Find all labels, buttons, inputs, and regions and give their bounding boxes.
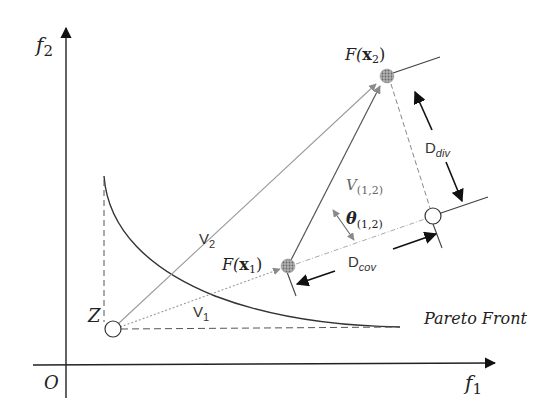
vector-v1-label: V1 xyxy=(193,303,209,323)
origin-label: O xyxy=(44,372,59,393)
theta-label: θ(1,2) xyxy=(346,209,383,231)
dcov-tick-right xyxy=(433,224,442,248)
vector-v12 xyxy=(290,86,380,262)
y-axis-label: f2 xyxy=(34,33,53,60)
solution-point-x1 xyxy=(281,259,295,273)
ddiv-arrow-down xyxy=(446,162,462,201)
pareto-front-label: Pareto Front xyxy=(423,309,528,328)
x-axis xyxy=(33,363,495,365)
z-horizontal-dashed xyxy=(121,327,400,329)
solution-point-x2 xyxy=(380,69,394,83)
ddiv-arrow-up xyxy=(415,92,432,130)
solution-2-label: F(x2) xyxy=(344,45,385,66)
projected-point xyxy=(425,208,441,224)
vector-v12-label: V(1,2) xyxy=(346,176,383,197)
lower-boundary-line xyxy=(441,197,488,213)
x-axis-label: f1 xyxy=(463,371,482,398)
dcov-arrow-right xyxy=(393,234,436,249)
upper-boundary-line xyxy=(393,57,440,73)
ideal-point-label: Z xyxy=(87,305,101,326)
vector-v2 xyxy=(118,84,376,324)
dcov-arrow-left xyxy=(297,271,335,284)
solution-1-label: F(x1) xyxy=(221,255,262,276)
ideal-point-z xyxy=(105,321,121,337)
pareto-diagram: f2 f1 O Pareto Front Z F(x1) F(x2) V2 xyxy=(0,0,557,414)
dcov-tick-left xyxy=(287,272,296,296)
ddiv-label: Ddiv xyxy=(425,139,451,159)
dcov-label: Dcov xyxy=(348,253,377,273)
